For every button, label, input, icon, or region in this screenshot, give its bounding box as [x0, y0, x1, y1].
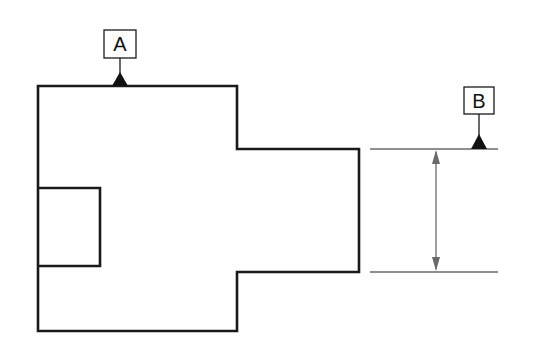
part-outline [38, 86, 359, 331]
drawing-canvas: A B [0, 0, 541, 348]
datum-b-triangle-icon [471, 134, 487, 149]
datum-b-label: B [472, 90, 485, 112]
dimension-arrow-up-icon [432, 150, 440, 164]
datum-a-label: A [113, 33, 127, 55]
datum-a-triangle-icon [112, 72, 128, 86]
datum-a: A [104, 30, 136, 86]
notch-outline [38, 188, 100, 266]
dimension-arrow-down-icon [432, 257, 440, 271]
datum-b: B [464, 87, 494, 149]
